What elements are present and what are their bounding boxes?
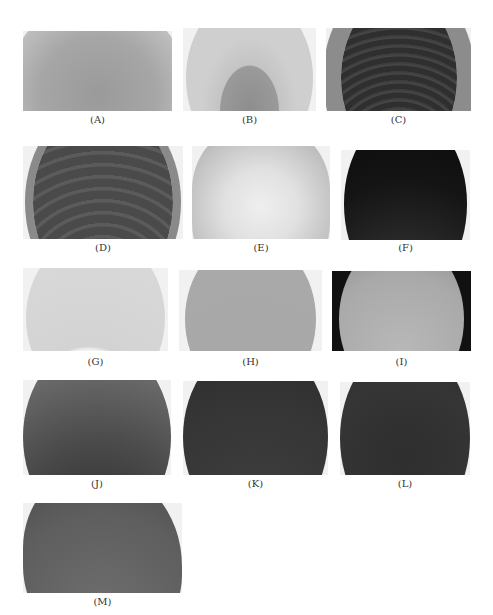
panel-label-m: (M) [73,596,133,607]
panel-label-j: (J) [67,478,127,489]
colony-plate [23,31,172,111]
colony-plate [186,28,314,111]
colony-image-g [23,268,168,351]
colony-image-j [23,380,171,475]
colony-image-f [341,150,470,240]
panel-label-h: (H) [221,356,281,367]
colony-plate [185,270,317,351]
colony-image-e [192,146,330,239]
panel-label-g: (G) [66,356,126,367]
colony-plate [344,150,468,240]
colony-image-h [179,270,322,351]
colony-plate [33,146,174,239]
panel-label-b: (B) [220,114,280,125]
panel-label-l: (L) [375,478,435,489]
colony-plate [23,503,182,593]
panel-label-a: (A) [68,114,128,125]
panel-label-k: (K) [226,478,286,489]
colony-plate [340,382,470,475]
colony-plate [339,271,464,351]
panel-label-d: (D) [73,242,133,253]
colony-plate [26,268,165,351]
panel-label-e: (E) [231,242,291,253]
colony-plate [192,146,330,239]
panel-label-i: (I) [372,356,432,367]
colony-image-a [23,31,172,111]
colony-plate [183,381,328,475]
cropped-running-header [0,0,493,4]
panel-label-c: (C) [369,114,429,125]
colony-image-d [23,146,183,239]
colony-image-i [332,271,471,351]
colony-image-l [340,382,470,475]
colony-image-k [183,381,328,475]
colony-image-c [326,28,471,111]
colony-image-m [23,503,182,593]
colony-image-b [183,28,316,111]
panel-label-f: (F) [376,242,436,253]
colony-plate [23,380,171,475]
colony-plate [341,28,457,111]
